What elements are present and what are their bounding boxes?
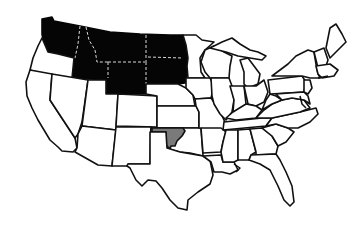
state-maine	[326, 24, 346, 58]
state-michigan-lower	[240, 58, 260, 88]
us-map: United States map with highlighted regio…	[0, 0, 360, 226]
state-new-jersey	[304, 80, 312, 94]
state-kansas	[157, 106, 199, 128]
state-new-mexico	[112, 127, 151, 166]
state-colorado	[116, 94, 157, 127]
state-florida	[249, 154, 294, 206]
state-new-york	[272, 50, 320, 78]
northeast-states	[268, 24, 346, 104]
state-arizona	[75, 126, 116, 166]
map-svg	[0, 0, 360, 226]
state-pennsylvania	[268, 76, 306, 94]
